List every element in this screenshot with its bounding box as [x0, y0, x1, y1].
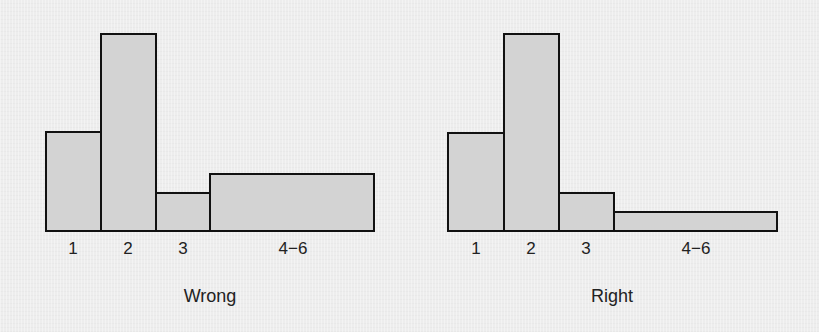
bar-4-6: [613, 211, 778, 232]
tick-label-2: 2: [526, 239, 535, 259]
tick-label-4-6: 4−6: [682, 239, 711, 259]
histogram-right: 1 2 3 4−6 Right: [0, 0, 819, 332]
tick-label-3: 3: [581, 239, 590, 259]
chart-title-right: Right: [591, 286, 633, 307]
bar-3: [558, 192, 615, 232]
bar-1: [447, 132, 505, 232]
tick-label-1: 1: [471, 239, 480, 259]
bar-2: [503, 33, 560, 232]
